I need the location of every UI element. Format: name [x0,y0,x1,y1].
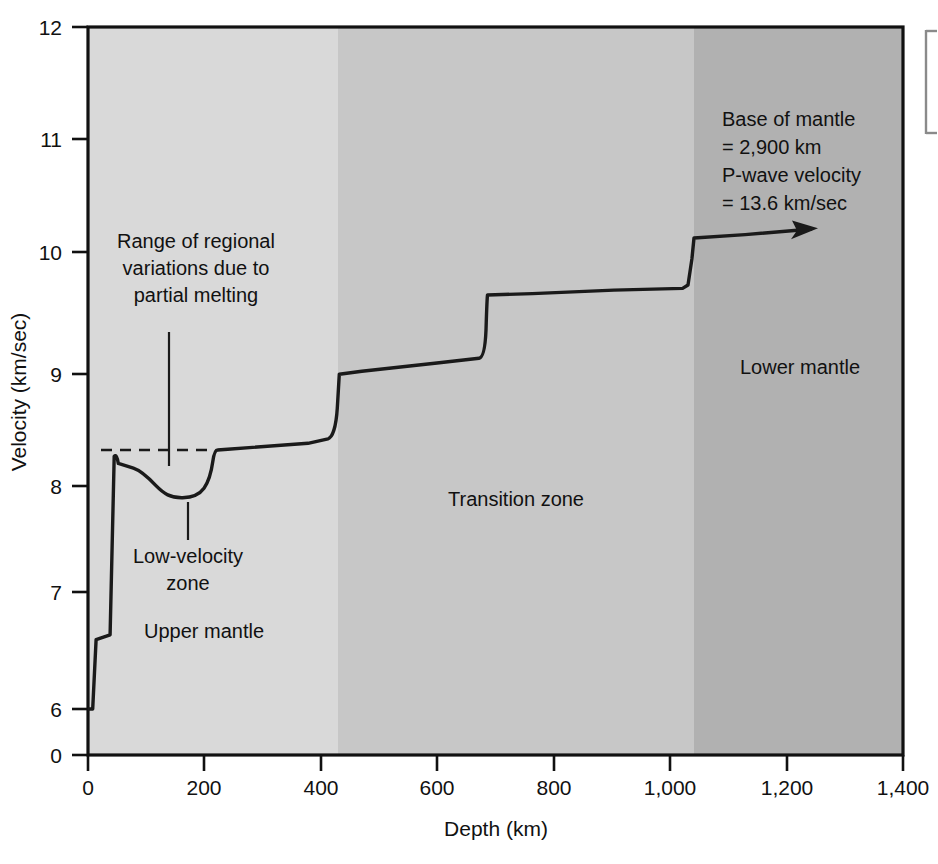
y-axis-title: Velocity (km/sec) [7,313,30,472]
y-tick-label: 9 [50,363,62,386]
x-tick-label: 0 [82,776,94,799]
y-axis-ticks [72,27,88,755]
regional-variations-line-3: partial melting [134,284,259,306]
figure-root: 12 11 10 9 8 7 6 0 0 200 400 600 800 [0,0,938,864]
base-of-mantle-line-1: Base of mantle [722,108,855,130]
zone-band-upper-mantle [88,27,338,755]
regional-variations-annotation: Range of regional variations due to part… [117,230,275,306]
low-velocity-zone-line-1: Low-velocity [133,545,243,567]
x-tick-label: 200 [186,776,221,799]
velocity-depth-chart: 12 11 10 9 8 7 6 0 0 200 400 600 800 [0,0,938,864]
x-tick-label: 1,400 [877,776,930,799]
low-velocity-zone-line-2: zone [166,572,209,594]
y-tick-label: 12 [39,16,62,39]
x-tick-label: 600 [419,776,454,799]
y-tick-label: 0 [50,744,62,767]
zone-label-lower-mantle: Lower mantle [740,356,860,378]
zone-band-transition-zone [338,27,694,755]
base-of-mantle-line-3: P-wave velocity [722,164,861,186]
y-tick-label: 7 [50,581,62,604]
x-tick-label: 400 [303,776,338,799]
x-tick-label: 800 [536,776,571,799]
base-of-mantle-line-4: = 13.6 km/sec [722,192,847,214]
y-axis-tick-labels: 12 11 10 9 8 7 6 0 [39,16,62,767]
x-axis-title: Depth (km) [444,817,548,840]
x-axis-tick-labels: 0 200 400 600 800 1,000 1,200 1,400 [82,776,929,799]
regional-variations-line-2: variations due to [123,257,270,279]
y-tick-label: 11 [40,128,62,151]
x-tick-label: 1,000 [644,776,697,799]
zone-label-upper-mantle: Upper mantle [144,620,264,642]
y-tick-label: 10 [39,241,62,264]
y-tick-label: 8 [50,475,62,498]
x-tick-label: 1,200 [761,776,814,799]
regional-variations-line-1: Range of regional [117,230,275,252]
base-of-mantle-line-2: = 2,900 km [722,136,822,158]
x-axis-ticks [88,755,903,771]
zone-label-transition-zone: Transition zone [448,488,584,510]
y-tick-label: 6 [50,698,62,721]
